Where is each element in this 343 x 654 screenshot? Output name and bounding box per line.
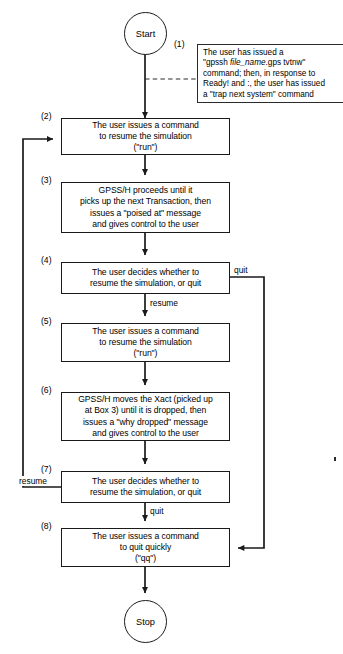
process-box-7-number: (7) bbox=[41, 464, 52, 474]
process-box-4-number: (4) bbox=[41, 255, 52, 265]
annotation-note-1: The user has issued a "gpssh file_name.g… bbox=[197, 44, 343, 103]
stop-label: Stop bbox=[136, 617, 155, 627]
process-box-5: The user issues a command to resume the … bbox=[61, 323, 230, 362]
note-line-5: a "trap next system" command bbox=[203, 90, 341, 100]
process-box-6-text: GPSS/H moves the Xact (picked up at Box … bbox=[75, 394, 216, 438]
process-box-3-text: GPSS/H proceeds until it picks up the ne… bbox=[77, 185, 214, 229]
edge-label-quit-from-7: quit bbox=[149, 506, 165, 516]
edge-4-quit-to-8 bbox=[230, 277, 264, 548]
note-line-4: Ready! and :, the user has issued bbox=[203, 79, 341, 89]
process-box-5-number: (5) bbox=[41, 316, 52, 326]
process-box-2-text: The user issues a command to resume the … bbox=[89, 120, 202, 153]
process-box-2-number: (2) bbox=[41, 111, 52, 121]
flowchart-figure: Start Stop The user has issued a "gpssh … bbox=[0, 0, 343, 654]
process-box-2: The user issues a command to resume the … bbox=[61, 118, 230, 155]
edge-label-quit-from-4: quit bbox=[233, 265, 249, 275]
process-box-7: The user decides whether to resume the s… bbox=[61, 471, 230, 503]
note-line-3: command; then, in response to bbox=[203, 69, 341, 79]
process-box-7-text: The user decides whether to resume the s… bbox=[87, 476, 204, 498]
process-box-8-number: (8) bbox=[41, 521, 52, 531]
process-box-4-text: The user decides whether to resume the s… bbox=[87, 267, 204, 289]
stop-terminal: Stop bbox=[124, 600, 167, 643]
process-box-4: The user decides whether to resume the s… bbox=[61, 262, 230, 294]
process-box-5-text: The user issues a command to resume the … bbox=[89, 326, 202, 359]
process-box-6: GPSS/H moves the Xact (picked up at Box … bbox=[61, 392, 230, 441]
process-box-6-number: (6) bbox=[41, 385, 52, 395]
scan-speck bbox=[334, 457, 336, 461]
start-label: Start bbox=[136, 29, 155, 39]
edge-label-resume-from-7: resume bbox=[18, 476, 48, 486]
process-box-3: GPSS/H proceeds until it picks up the ne… bbox=[61, 182, 230, 233]
note-line-2-emphasis: file_name bbox=[230, 58, 266, 67]
note-line-2-pre: "gpssh bbox=[203, 58, 230, 67]
note-line-1: The user has issued a bbox=[203, 48, 341, 58]
process-box-8: The user issues a command to quit quickl… bbox=[61, 528, 230, 567]
note-line-2-post: .gps tvtnw" bbox=[266, 58, 306, 67]
edge-7-resume-to-2 bbox=[23, 139, 61, 487]
edge-label-resume-from-4: resume bbox=[149, 298, 179, 308]
note-line-2: "gpssh file_name.gps tvtnw" bbox=[203, 58, 341, 68]
process-box-8-text: The user issues a command to quit quickl… bbox=[89, 531, 202, 564]
process-box-3-number: (3) bbox=[41, 175, 52, 185]
note-number-1: (1) bbox=[174, 39, 185, 49]
start-terminal: Start bbox=[124, 12, 167, 55]
